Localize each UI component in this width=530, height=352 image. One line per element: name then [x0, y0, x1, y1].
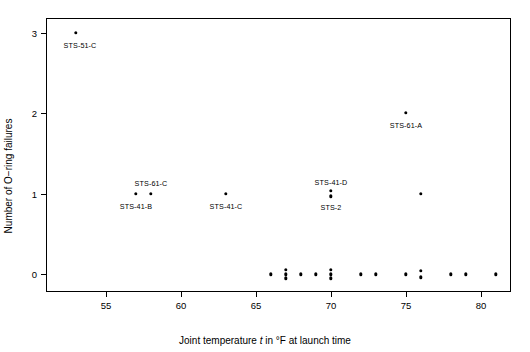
y-tick-label: 0 [32, 269, 37, 280]
y-tick-mark [41, 194, 46, 195]
y-tick-label: 3 [32, 27, 37, 38]
y-tick-label: 1 [32, 188, 37, 199]
chart-canvas: 556065707580 0123 STS-51-CSTS-61-ASTS-61… [0, 0, 530, 352]
point-annotation-label: STS-2 [321, 203, 342, 212]
y-tick-label: 2 [32, 108, 37, 119]
x-tick-label: 65 [251, 300, 262, 311]
x-tick-mark [256, 292, 257, 297]
x-axis-title: Joint temperature t in °F at launch time [179, 335, 351, 346]
point-annotation-label: STS-41-D [315, 178, 348, 187]
x-tick-label: 70 [326, 300, 337, 311]
point-annotation-label: STS-61-C [135, 179, 168, 188]
x-tick-label: 60 [176, 300, 187, 311]
point-annotation-label: STS-61-A [390, 121, 422, 130]
y-tick-mark [41, 33, 46, 34]
point-annotation-label: STS-51-C [64, 41, 97, 50]
x-axis-title-after: in °F at launch time [262, 335, 350, 346]
x-tick-label: 80 [476, 300, 487, 311]
y-axis-title: Number of O−ring failures [3, 119, 14, 234]
x-tick-mark [481, 292, 482, 297]
x-axis-title-before: Joint temperature [179, 335, 260, 346]
x-tick-label: 75 [401, 300, 412, 311]
x-tick-mark [181, 292, 182, 297]
y-tick-mark [41, 113, 46, 114]
x-tick-label: 55 [101, 300, 112, 311]
x-tick-mark [406, 292, 407, 297]
x-tick-mark [106, 292, 107, 297]
x-tick-mark [331, 292, 332, 297]
plot-panel-frame [46, 18, 511, 292]
y-tick-mark [41, 274, 46, 275]
point-annotation-label: STS-41-B [120, 202, 152, 211]
point-annotation-label: STS-41-C [210, 202, 243, 211]
